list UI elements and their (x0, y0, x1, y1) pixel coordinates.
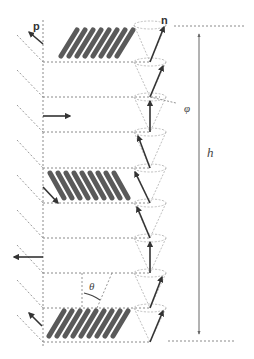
diagonal-dashed-lines (17, 35, 43, 342)
p-arrow-1 (29, 32, 43, 44)
n-arrow-8 (150, 277, 162, 308)
cone-8 (134, 269, 166, 308)
layer-lines (43, 62, 160, 342)
label-phi: φ (184, 102, 190, 114)
n-arrow-4 (138, 136, 150, 168)
cone-1 (134, 21, 166, 62)
cone-4 (134, 128, 166, 168)
rod-block-bottom (49, 311, 128, 336)
n-arrow-5 (135, 172, 150, 203)
p-arrow-5 (29, 313, 42, 326)
label-n: n (161, 14, 168, 26)
rod-block-top (61, 30, 133, 56)
label-theta: θ (89, 280, 95, 292)
smectic-helix-diagram: p n φ θ h (0, 0, 254, 359)
cone-2 (134, 58, 166, 97)
n-arrow-6 (137, 207, 150, 238)
p-arrow-3 (43, 187, 58, 203)
director-arrows (135, 27, 164, 342)
n-arrow-1 (150, 27, 164, 62)
pitch-dimension (168, 26, 246, 341)
label-h: h (207, 145, 214, 160)
theta-construction (82, 273, 112, 308)
n-arrow-9 (150, 311, 163, 342)
cone-5 (134, 164, 166, 203)
label-p: p (33, 20, 40, 32)
cone-9 (134, 304, 166, 342)
n-arrow-2 (150, 66, 163, 97)
rod-block-middle (50, 173, 128, 198)
phi-reference-line (150, 97, 176, 103)
cone-6 (134, 199, 166, 238)
